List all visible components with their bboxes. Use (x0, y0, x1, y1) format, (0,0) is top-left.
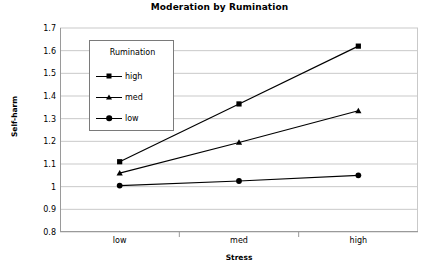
y-tick-label: 1.3 (30, 114, 56, 123)
y-tick-label: 1.7 (30, 24, 56, 33)
legend-item-med[interactable]: med (96, 90, 175, 104)
legend-swatch-circle-icon (96, 112, 122, 124)
legend-swatch-triangle-icon (96, 91, 122, 103)
data-point-high (117, 159, 122, 164)
legend-swatch-square-icon (96, 70, 122, 82)
legend-title: Rumination (90, 48, 175, 57)
data-point-low (117, 183, 123, 189)
y-tick-label: 1.2 (30, 137, 56, 146)
data-point-low (355, 172, 361, 178)
y-tick-label: 1.6 (30, 46, 56, 55)
y-tick-label: 1.1 (30, 160, 56, 169)
x-tick-label-high: high (323, 236, 393, 245)
chart-container: Moderation by Rumination Self-harm 0.80.… (0, 0, 439, 273)
y-axis-tick-labels: 0.80.911.11.21.31.41.51.61.7 (26, 28, 56, 232)
x-tick-label-low: low (85, 236, 155, 245)
chart-title: Moderation by Rumination (0, 2, 439, 12)
x-axis-title: Stress (60, 253, 418, 262)
y-tick-label: 1.4 (30, 92, 56, 101)
legend-box: Rumination highmedlow (89, 40, 174, 131)
legend-item-low[interactable]: low (96, 111, 175, 125)
data-point-low (236, 178, 242, 184)
legend-item-high[interactable]: high (96, 69, 175, 83)
data-point-high (236, 101, 241, 106)
y-axis-title: Self-harm (10, 87, 19, 147)
y-tick-label: 0.9 (30, 205, 56, 214)
legend-label: med (122, 93, 143, 102)
y-tick-label: 1.5 (30, 69, 56, 78)
data-point-med (355, 108, 361, 114)
y-tick-label: 0.8 (30, 228, 56, 237)
legend-label: low (122, 114, 139, 123)
legend-label: high (122, 72, 142, 81)
y-tick-label: 1 (30, 182, 56, 191)
data-point-high (356, 44, 361, 49)
x-axis-tick-labels: lowmedhigh (60, 236, 418, 250)
x-tick-label-med: med (204, 236, 274, 245)
